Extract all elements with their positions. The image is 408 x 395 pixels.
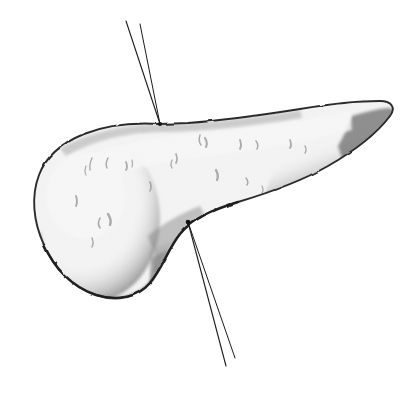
pancreas-illustration-canvas: Pencil sketch of a human pancreas in lat… bbox=[0, 0, 408, 395]
pancreas-drawing-svg: Pencil sketch of a human pancreas in lat… bbox=[0, 0, 408, 395]
inferior-leader-anchor-dot bbox=[186, 220, 191, 225]
superior-leader-anchor-dot bbox=[158, 122, 162, 126]
